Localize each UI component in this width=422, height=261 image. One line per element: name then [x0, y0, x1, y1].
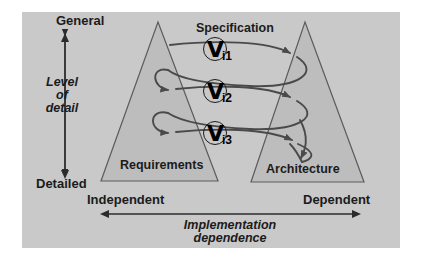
triangle-label-requirements: Requirements	[120, 159, 203, 172]
v-marker-i3: V i3	[203, 121, 229, 147]
v-marker-i2: V i2	[203, 79, 229, 105]
axis-title-line-2: dependence	[168, 232, 292, 245]
axis-title-implementation-dependence: Implementation dependence	[168, 219, 292, 245]
v-marker-subscript: i3	[222, 133, 232, 147]
v-marker-subscript: i2	[222, 91, 232, 105]
diagram-canvas: General Detailed Level of detail Indepen…	[0, 0, 422, 261]
axis-title-level-of-detail: Level of detail	[30, 76, 94, 115]
triangle-label-architecture: Architecture	[266, 163, 340, 176]
axis-label-dependent: Dependent	[303, 193, 370, 207]
v-marker-subscript: i1	[222, 49, 232, 63]
axis-label-detailed: Detailed	[36, 177, 87, 191]
axis-implementation-dependence	[100, 210, 361, 218]
axis-label-general: General	[56, 14, 104, 28]
spiral-label-specification: Specification	[196, 22, 274, 35]
v-marker-i1: V i1	[203, 37, 229, 63]
axis-title-line-3: detail	[30, 102, 94, 115]
axis-label-independent: Independent	[87, 193, 164, 207]
